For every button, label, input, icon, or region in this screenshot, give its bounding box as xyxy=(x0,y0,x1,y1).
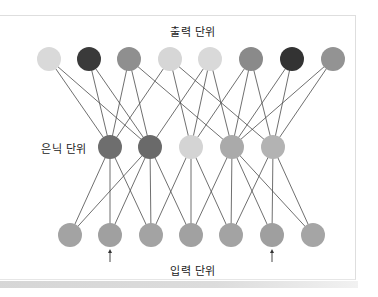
input-layer-label: 입력 단위 xyxy=(170,262,216,278)
edge-output-hidden xyxy=(49,59,110,147)
output-node-8 xyxy=(321,47,345,71)
output-node-6 xyxy=(239,47,263,71)
hidden-layer-label: 은닉 단위 xyxy=(41,140,87,156)
edge-output-hidden xyxy=(191,59,210,147)
output-node-3 xyxy=(117,47,141,71)
input-node-4 xyxy=(179,223,203,247)
edge-hidden-input xyxy=(272,147,273,235)
input-node-3 xyxy=(139,223,163,247)
edge-output-hidden xyxy=(110,59,129,147)
edge-output-hidden xyxy=(150,59,210,147)
hidden-node-5 xyxy=(261,135,285,159)
edge-output-hidden xyxy=(170,59,191,147)
edge-output-hidden xyxy=(129,59,150,147)
input-node-1 xyxy=(58,223,82,247)
edge-output-hidden xyxy=(170,59,273,147)
hidden-node-2 xyxy=(138,135,162,159)
arrow-up-icon xyxy=(270,249,274,253)
input-node-5 xyxy=(219,223,243,247)
edge-output-hidden xyxy=(232,59,333,147)
input-node-2 xyxy=(98,223,122,247)
input-node-6 xyxy=(260,223,284,247)
output-node-7 xyxy=(280,47,304,71)
edge-output-hidden xyxy=(191,59,251,147)
edge-hidden-input xyxy=(273,147,313,235)
hidden-node-3 xyxy=(179,135,203,159)
output-node-4 xyxy=(158,47,182,71)
hidden-node-1 xyxy=(98,135,122,159)
arrow-up-icon xyxy=(108,249,112,253)
edge-hidden-input xyxy=(150,147,151,235)
edge-output-hidden xyxy=(110,59,170,147)
edge-output-hidden xyxy=(232,59,251,147)
output-layer-label: 출력 단위 xyxy=(170,23,216,39)
output-node-5 xyxy=(198,47,222,71)
output-node-1 xyxy=(37,47,61,71)
edge-hidden-input xyxy=(231,147,232,235)
output-node-2 xyxy=(77,47,101,71)
hidden-node-4 xyxy=(220,135,244,159)
edge-hidden-input xyxy=(231,147,273,235)
edge-output-hidden xyxy=(89,59,110,147)
edge-hidden-input xyxy=(70,147,110,235)
input-arrows xyxy=(108,249,274,262)
input-node-7 xyxy=(301,223,325,247)
